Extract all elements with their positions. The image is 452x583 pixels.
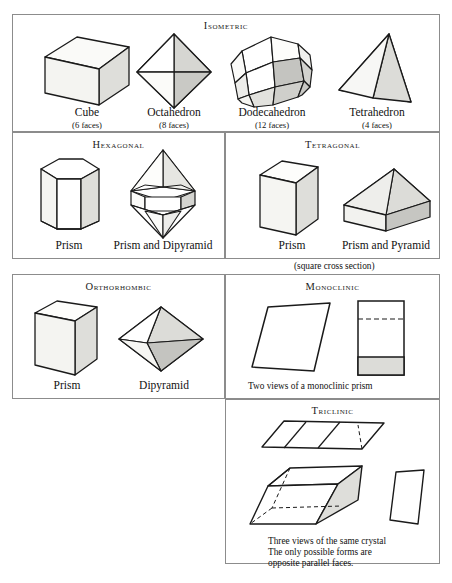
shape-tetragonal-pyramid	[336, 167, 436, 241]
shape-monoclinic-side-view	[250, 301, 336, 377]
panel-title-tetragonal: Tetragonal	[226, 139, 439, 150]
label-tetragonal-pyramid: Prism and Pyramid	[326, 239, 446, 251]
shape-orthorhombic-prism	[31, 297, 107, 379]
label-orthorhombic-dipyramid: Dipyramid	[109, 379, 219, 391]
shape-cube	[41, 33, 133, 109]
note-triclinic-line3: opposite parallel faces.	[268, 558, 353, 569]
note-triclinic-line1: Three views of the same crystal	[268, 536, 386, 547]
panel-monoclinic: Monoclinic Two views of a monoclinic pri…	[225, 274, 440, 399]
shape-tetragonal-prism	[256, 157, 328, 241]
shape-triclinic-face-view	[386, 468, 430, 530]
panel-orthorhombic: Orthorhombic Prism Dipyramid	[12, 274, 225, 399]
shape-tetrahedron	[333, 32, 425, 108]
crystal-systems-figure: Isometric Cube (6 faces) Octahedron (8 f…	[12, 14, 440, 564]
shape-hexagonal-prism	[31, 155, 107, 239]
sublabel-tetrahedron: (4 faces)	[318, 120, 436, 130]
label-orthorhombic-prism: Prism	[17, 379, 117, 391]
label-hexagonal-dipyramid: Prism and Dipyramid	[99, 239, 227, 251]
shape-dodecahedron	[226, 35, 316, 109]
note-triclinic-line2: The only possible forms are	[268, 547, 372, 558]
panel-isometric: Isometric Cube (6 faces) Octahedron (8 f…	[12, 14, 440, 132]
sublabel-dodecahedron: (12 faces)	[211, 120, 333, 130]
panel-hexagonal: Hexagonal Prism	[12, 132, 225, 259]
panel-triclinic: Triclinic	[225, 399, 440, 564]
shape-triclinic-flat-view	[258, 419, 390, 455]
shape-orthorhombic-dipyramid	[113, 303, 209, 375]
panel-title-orthorhombic: Orthorhombic	[13, 281, 224, 292]
shape-monoclinic-front-view	[354, 299, 410, 379]
label-dodecahedron: Dodecahedron	[211, 106, 333, 118]
panel-tetragonal: Tetragonal Prism Prism and Pyramid	[225, 132, 440, 259]
label-tetrahedron: Tetrahedron	[318, 106, 436, 118]
shape-hexagonal-dipyramid	[117, 147, 209, 241]
note-monoclinic: Two views of a monoclinic prism	[248, 381, 373, 392]
shape-octahedron	[131, 32, 217, 110]
note-tetragonal: (square cross section)	[294, 261, 375, 272]
shape-triclinic-solid-view	[246, 464, 376, 530]
panel-title-isometric: Isometric	[13, 20, 439, 31]
panel-title-monoclinic: Monoclinic	[226, 281, 439, 292]
panel-title-triclinic: Triclinic	[226, 405, 439, 416]
